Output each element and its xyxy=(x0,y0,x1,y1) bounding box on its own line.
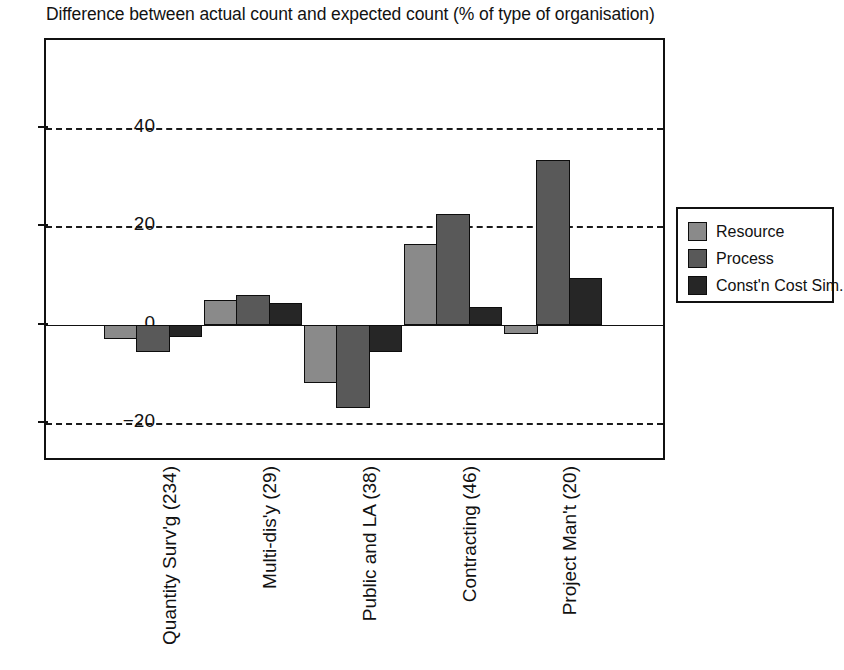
bar xyxy=(136,325,170,352)
bar xyxy=(268,303,302,325)
chart-title: Difference between actual count and expe… xyxy=(46,4,655,25)
bar xyxy=(404,244,438,325)
y-tick-mark xyxy=(38,323,48,325)
legend-swatch-icon xyxy=(688,276,707,295)
bar xyxy=(368,325,402,352)
bar xyxy=(204,300,238,325)
bar xyxy=(436,214,470,324)
x-axis-category-label: Contracting (46) xyxy=(459,466,481,602)
legend-label: Resource xyxy=(716,223,784,241)
legend-swatch-icon xyxy=(688,222,707,241)
bar xyxy=(468,307,502,324)
plot-inner xyxy=(46,40,663,458)
bar xyxy=(536,160,570,324)
bar xyxy=(304,325,338,384)
legend-swatch-icon xyxy=(688,249,707,268)
bar xyxy=(104,325,138,340)
x-axis-category-label: Project Man't (20) xyxy=(559,466,581,615)
y-tick-mark xyxy=(38,224,48,226)
x-axis-category-label: Public and LA (38) xyxy=(359,466,381,621)
x-axis-category-label: Multi-dis'y (29) xyxy=(259,466,281,589)
legend-item: Process xyxy=(688,249,774,268)
legend-item: Const'n Cost Sim. xyxy=(688,276,844,295)
plot-area xyxy=(44,38,665,460)
legend-label: Const'n Cost Sim. xyxy=(716,277,844,295)
y-tick-label: 40 xyxy=(134,115,155,137)
y-tick-label: −20 xyxy=(123,410,155,432)
x-axis-category-label: Quantity Surv'g (234) xyxy=(159,466,181,645)
legend-item: Resource xyxy=(688,222,784,241)
bar xyxy=(336,325,370,408)
y-tick-label: 20 xyxy=(134,213,155,235)
legend-label: Process xyxy=(716,250,774,268)
bar xyxy=(568,278,602,325)
y-tick-mark xyxy=(38,421,48,423)
legend: ResourceProcessConst'n Cost Sim. xyxy=(676,207,834,303)
bar xyxy=(168,325,202,337)
bar xyxy=(236,295,270,324)
y-tick-mark xyxy=(38,126,48,128)
bar xyxy=(504,325,538,335)
